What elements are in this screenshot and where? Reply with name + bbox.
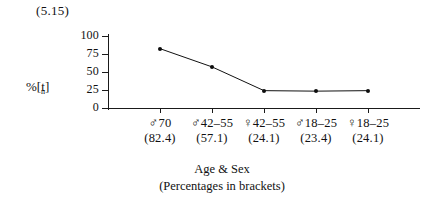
x-axis-group: ♂42–55(57.1) <box>191 116 233 145</box>
data-line-series <box>108 36 420 108</box>
y-axis-tick-label: 100 <box>80 28 99 43</box>
x-axis-group-percentage: (24.1) <box>347 131 389 145</box>
x-axis-tick-mark <box>316 108 317 113</box>
x-axis-tick-mark <box>264 108 265 113</box>
x-axis-group: ♂70(82.4) <box>144 116 175 145</box>
series-polyline <box>160 49 368 91</box>
y-axis-tick-label: 75 <box>87 46 99 61</box>
data-point <box>314 89 318 93</box>
x-axis-group-age: ♀42–55 <box>243 116 285 131</box>
y-axis-tick-mark <box>102 108 109 109</box>
x-axis-tick-mark <box>368 108 369 113</box>
y-axis-title-bracket: ] <box>45 79 49 94</box>
x-axis-tick-mark <box>212 108 213 113</box>
y-axis-tick-label: 25 <box>87 82 99 97</box>
x-axis-age-range: 42–55 <box>253 116 285 130</box>
y-axis-tick-label: 50 <box>87 64 99 79</box>
x-axis-age-range: 18–25 <box>305 116 337 130</box>
data-point <box>262 89 266 93</box>
male-symbol-icon: ♂ <box>191 115 201 130</box>
caption-line-1: Age & Sex <box>0 161 444 178</box>
figure-number: (5.15) <box>36 3 69 19</box>
data-point <box>210 65 214 69</box>
y-axis-title: %[tn] <box>26 80 49 96</box>
x-axis-group-labels: ♂70(82.4)♂42–55(57.1)♀42–55(24.1)♂18–25(… <box>108 116 420 154</box>
x-axis-group: ♀42–55(24.1) <box>243 116 285 145</box>
female-symbol-icon: ♀ <box>347 115 357 130</box>
x-axis-group-age: ♂42–55 <box>191 116 233 131</box>
data-point <box>366 89 370 93</box>
plot-area: 1007550250 <box>108 36 420 108</box>
x-axis-group-percentage: (23.4) <box>295 131 337 145</box>
female-symbol-icon: ♀ <box>243 115 253 130</box>
x-axis-age-range: 18–25 <box>357 116 389 130</box>
x-axis-tick-mark <box>160 108 161 113</box>
figure-caption: Age & Sex (Percentages in brackets) <box>0 161 444 194</box>
x-axis-group-percentage: (57.1) <box>191 131 233 145</box>
x-axis-group: ♀18–25(24.1) <box>347 116 389 145</box>
x-axis-age-range: 70 <box>159 116 172 130</box>
y-axis-tick-label: 0 <box>93 100 99 115</box>
x-axis-group-percentage: (24.1) <box>243 131 285 145</box>
figure-container: (5.15) %[tn] 1007550250 ♂70(82.4)♂42–55(… <box>0 0 444 209</box>
male-symbol-icon: ♂ <box>295 115 305 130</box>
data-point <box>158 47 162 51</box>
male-symbol-icon: ♂ <box>149 115 159 130</box>
x-axis-group-age: ♂18–25 <box>295 116 337 131</box>
x-axis-group-age: ♀18–25 <box>347 116 389 131</box>
x-axis-group-age: ♂70 <box>144 116 175 131</box>
x-axis-group: ♂18–25(23.4) <box>295 116 337 145</box>
caption-line-2: (Percentages in brackets) <box>0 178 444 195</box>
x-axis-group-percentage: (82.4) <box>144 131 175 145</box>
x-axis-age-range: 42–55 <box>201 116 233 130</box>
